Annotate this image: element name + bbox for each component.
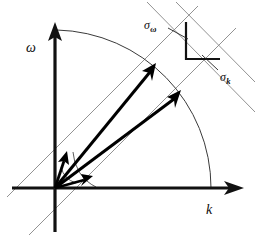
sigma-k-subscript: k xyxy=(226,76,230,86)
right-angle-bracket xyxy=(186,22,220,59)
omega-axis xyxy=(48,22,62,232)
vector-long-shallow-shaft xyxy=(55,99,174,188)
sigma-k-leader xyxy=(202,55,218,70)
vector-long-steep-shaft xyxy=(55,72,150,188)
vector-long-shallow xyxy=(55,90,181,188)
diagram-canvas xyxy=(0,0,255,244)
vector-long-shallow-arrowhead xyxy=(167,90,181,108)
k-axis xyxy=(12,181,244,195)
k-axis-label: k xyxy=(206,203,212,217)
sigma-k-line-right xyxy=(176,2,255,82)
sigma-k-line-left xyxy=(147,2,255,112)
sigma-omega-parallel-lines xyxy=(7,6,236,235)
sigma-k-label: σk xyxy=(220,71,230,83)
unit-magnitude-arc xyxy=(57,30,211,188)
figure-root: ω k σω σk xyxy=(0,0,255,244)
sigma-omega-label: σω xyxy=(144,19,156,31)
sigma-k-parallel-lines xyxy=(147,2,255,112)
sigma-omega-subscript: ω xyxy=(150,24,156,34)
omega-axis-label: ω xyxy=(26,41,36,55)
